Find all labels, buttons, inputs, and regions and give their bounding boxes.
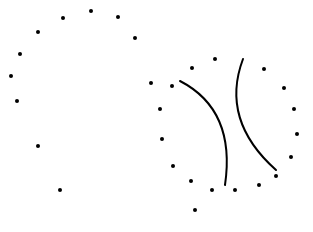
arc-group <box>180 59 276 185</box>
dot <box>233 188 237 192</box>
dot <box>193 208 197 212</box>
dot <box>36 30 40 34</box>
dot <box>133 36 137 40</box>
dot <box>36 144 40 148</box>
dot <box>18 52 22 56</box>
dot-diagram <box>0 0 313 232</box>
diagram-svg <box>0 0 313 232</box>
dot <box>158 107 162 111</box>
dot <box>116 15 120 19</box>
dot <box>15 99 19 103</box>
dot <box>289 155 293 159</box>
dot <box>190 66 194 70</box>
dot <box>282 86 286 90</box>
dot <box>9 74 13 78</box>
left-arc <box>180 81 227 185</box>
right-arc <box>236 59 276 170</box>
dot <box>262 67 266 71</box>
dot <box>61 16 65 20</box>
left-dot-cluster <box>9 9 137 192</box>
dot <box>292 107 296 111</box>
dot <box>274 174 278 178</box>
dot <box>171 164 175 168</box>
dot <box>58 188 62 192</box>
dot <box>189 179 193 183</box>
dot <box>257 183 261 187</box>
dot <box>149 81 153 85</box>
dot <box>295 132 299 136</box>
dot <box>213 57 217 61</box>
dot <box>170 84 174 88</box>
dot <box>89 9 93 13</box>
dot <box>210 188 214 192</box>
dot <box>160 137 164 141</box>
